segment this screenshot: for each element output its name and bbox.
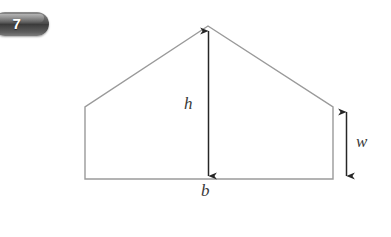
base-label: b — [201, 181, 210, 201]
height-label: h — [184, 94, 193, 114]
geometry-diagram: h w b — [0, 0, 391, 237]
figure-page: 7 h w b — [0, 0, 391, 237]
width-label: w — [356, 132, 367, 152]
diagram-canvas — [0, 0, 391, 237]
